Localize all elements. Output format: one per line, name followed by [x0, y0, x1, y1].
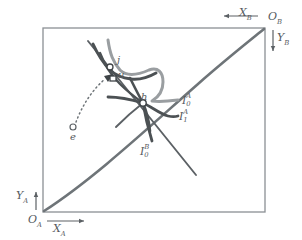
point-label-h: h	[141, 92, 147, 102]
edgeworth-box-figure: OA XA YA OB XB YB e j u h IA0 IA1 IB0	[0, 0, 302, 240]
point-marker-e	[70, 124, 76, 130]
curve-label-I1A: IA1	[179, 110, 188, 124]
contract-curve	[44, 29, 264, 211]
point-marker-u	[110, 76, 116, 81]
origin-label-b: OB	[268, 11, 282, 25]
diagram-canvas	[0, 0, 302, 240]
axis-label-y-a: YA	[16, 190, 28, 204]
point-marker-j	[107, 64, 113, 70]
point-label-e: e	[70, 132, 76, 142]
origin-label-a: OA	[28, 214, 42, 228]
dotted-path-e-to-u	[76, 79, 105, 122]
indifference-arm-lower-left	[116, 103, 143, 127]
axis-label-x-a: XA	[53, 223, 66, 237]
curve-label-I0A: IA0	[182, 94, 191, 108]
point-label-j: j	[117, 55, 120, 65]
axis-label-y-b: YB	[277, 32, 289, 46]
point-label-u: u	[118, 70, 124, 80]
curve-label-I0B: IB0	[140, 145, 149, 159]
axis-label-x-b: XB	[239, 7, 252, 21]
